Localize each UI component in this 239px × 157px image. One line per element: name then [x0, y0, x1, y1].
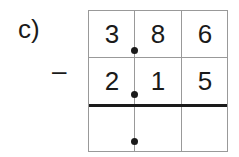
digit-cell: 8 [135, 11, 181, 57]
minus-sign: – [52, 56, 66, 87]
decimal-point [131, 138, 138, 145]
digit-cell: 5 [182, 58, 228, 104]
subtraction-grid: 3 8 6 2 1 5 [88, 10, 228, 152]
answer-cell[interactable] [89, 107, 135, 153]
digit-cell: 1 [135, 58, 181, 104]
decimal-point [131, 47, 138, 54]
digit-cell: 6 [182, 11, 228, 57]
digit-cell: 2 [89, 58, 135, 104]
answer-cell[interactable] [135, 107, 181, 153]
answer-cell[interactable] [182, 107, 228, 153]
digit-cell: 3 [89, 11, 135, 57]
problem-label: c) [18, 14, 40, 45]
decimal-point [131, 91, 138, 98]
